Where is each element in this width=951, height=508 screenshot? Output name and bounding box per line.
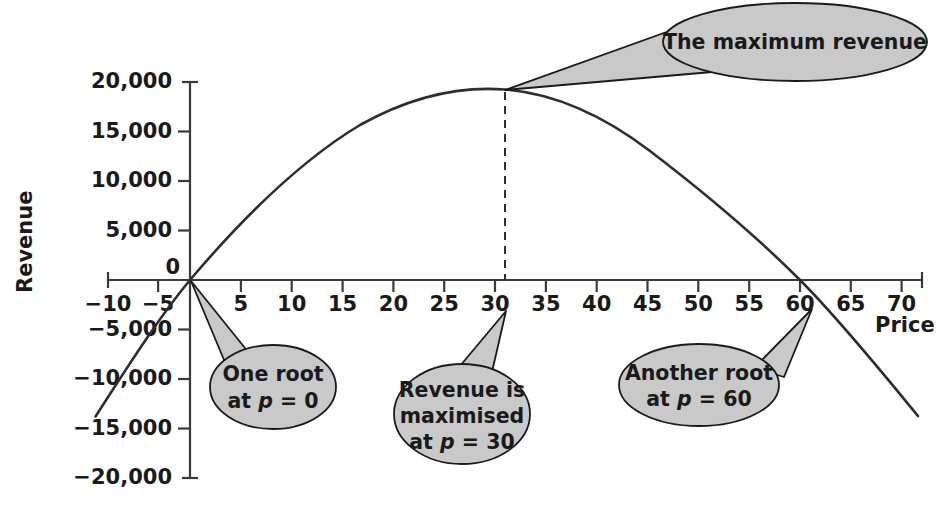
callout-maximised-tail <box>460 311 506 372</box>
callout-maximised-p: p <box>439 430 455 454</box>
x-tick-label: 50 <box>684 292 713 316</box>
callout-another-root-at: at <box>646 387 677 411</box>
x-tick-label: 45 <box>633 292 662 316</box>
callout-another-root-val: = 60 <box>692 387 752 411</box>
callout-one-root-p: p <box>257 389 273 413</box>
callout-max-revenue-text: The maximum revenue <box>663 30 927 54</box>
y-tick-label: 5,000 <box>106 218 172 242</box>
y-tick-label: −20,000 <box>73 465 172 489</box>
callout-another-root: Another root at p = 60 <box>619 309 812 426</box>
x-tick-label: 10 <box>277 292 306 316</box>
x-tick-label: 35 <box>531 292 560 316</box>
x-tick-label: 20 <box>379 292 408 316</box>
x-axis-ticks <box>158 280 902 292</box>
revenue-price-chart: 20,000 15,000 10,000 5,000 0 −5,000 −10,… <box>0 0 951 508</box>
callout-max-revenue: The maximum revenue <box>505 3 927 90</box>
x-tick-label: 15 <box>328 292 357 316</box>
callout-maximised-line2: maximised <box>400 404 525 428</box>
y-tick-label: 20,000 <box>91 69 172 93</box>
callout-maximised-at: at <box>409 430 440 454</box>
callout-one-root-line1: One root <box>222 362 323 386</box>
chart-canvas: 20,000 15,000 10,000 5,000 0 −5,000 −10,… <box>0 0 951 508</box>
callout-maximised: Revenue is maximised at p = 30 <box>394 311 530 464</box>
x-tick-label: 25 <box>430 292 459 316</box>
callout-maximised-line3: at p = 30 <box>409 430 514 454</box>
x-tick-label: 55 <box>735 292 764 316</box>
x-tick-label: 5 <box>234 292 249 316</box>
callout-one-root-line2: at p = 0 <box>227 389 318 413</box>
y-axis-title: Revenue <box>13 191 37 294</box>
callout-another-root-p: p <box>676 387 692 411</box>
callout-one-root-bubble <box>210 345 336 429</box>
callout-one-root-at: at <box>227 389 258 413</box>
callout-one-root: One root at p = 0 <box>191 281 336 429</box>
y-tick-label: −15,000 <box>73 416 172 440</box>
callout-maximised-line1: Revenue is <box>399 378 525 402</box>
callout-another-root-bubble <box>619 344 779 426</box>
callout-another-root-line1: Another root <box>625 361 773 385</box>
callout-another-root-line2: at p = 60 <box>646 387 751 411</box>
x-tick-label: 40 <box>582 292 611 316</box>
x-tick-label: 65 <box>836 292 865 316</box>
y-tick-label: −10,000 <box>73 366 172 390</box>
x-axis-title: Price <box>875 313 935 337</box>
x-tick-label: −10 <box>85 292 132 316</box>
y-tick-label: 10,000 <box>91 168 172 192</box>
y-tick-label-zero: 0 <box>165 255 180 279</box>
y-tick-label: 15,000 <box>91 119 172 143</box>
callout-maximised-val: = 30 <box>455 430 515 454</box>
callout-one-root-val: = 0 <box>273 389 319 413</box>
